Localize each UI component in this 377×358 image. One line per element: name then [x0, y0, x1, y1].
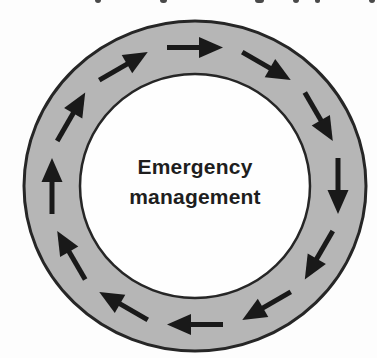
ring-inner-circle: [80, 74, 310, 298]
cycle-diagram: [0, 0, 377, 358]
diagram-canvas: Emergency management: [0, 0, 377, 358]
